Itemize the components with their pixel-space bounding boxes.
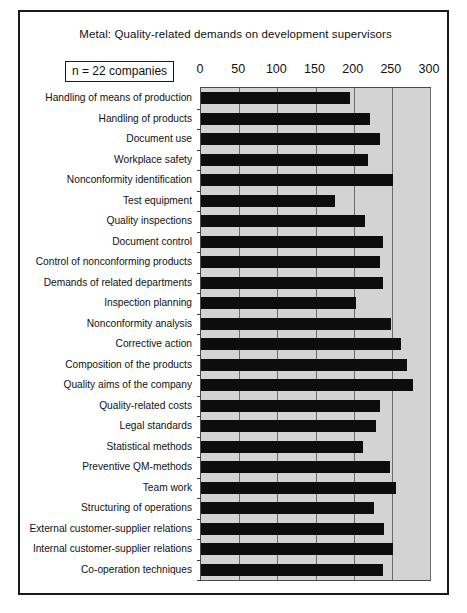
y-axis-tickmark bbox=[197, 129, 201, 130]
y-axis-tickmark bbox=[197, 478, 201, 479]
bar bbox=[201, 502, 374, 514]
bar bbox=[201, 174, 393, 186]
x-tick-label: 250 bbox=[380, 62, 401, 77]
bar bbox=[201, 154, 368, 166]
category-label: Quality-related costs bbox=[20, 400, 196, 412]
x-tick-label: 100 bbox=[266, 62, 287, 77]
y-axis-tickmark bbox=[197, 355, 201, 356]
y-axis-tickmark bbox=[197, 580, 201, 581]
y-axis-tickmark bbox=[197, 170, 201, 171]
x-axis-tick-labels: 050100150200250300 bbox=[20, 62, 451, 80]
bar bbox=[201, 441, 363, 453]
category-label: Legal standards bbox=[20, 420, 196, 432]
category-label: Internal customer-supplier relations bbox=[20, 543, 196, 555]
y-axis-tickmark bbox=[197, 539, 201, 540]
x-tick-label: 50 bbox=[231, 62, 245, 77]
bar bbox=[201, 400, 380, 412]
bar bbox=[201, 461, 390, 473]
y-axis-tickmark bbox=[197, 232, 201, 233]
y-axis-tickmark bbox=[197, 416, 201, 417]
category-label: Quality aims of the company bbox=[20, 379, 196, 391]
category-label: Quality inspections bbox=[20, 215, 196, 227]
category-label: Document use bbox=[20, 133, 196, 145]
bar bbox=[201, 215, 365, 227]
category-label: External customer-supplier relations bbox=[20, 523, 196, 535]
y-axis-tickmark bbox=[197, 519, 201, 520]
category-label: Nonconformity identification bbox=[20, 174, 196, 186]
plot-area bbox=[200, 87, 431, 581]
y-axis-tickmark bbox=[197, 252, 201, 253]
category-label: Inspection planning bbox=[20, 297, 196, 309]
category-label: Demands of related departments bbox=[20, 277, 196, 289]
gridline bbox=[430, 88, 431, 580]
bar bbox=[201, 338, 401, 350]
category-label: Structuring of operations bbox=[20, 502, 196, 514]
category-label: Workplace safety bbox=[20, 154, 196, 166]
x-tick-label: 0 bbox=[197, 62, 204, 77]
bar bbox=[201, 420, 376, 432]
category-label: Preventive QM-methods bbox=[20, 461, 196, 473]
bar bbox=[201, 543, 393, 555]
y-axis-tickmark bbox=[197, 273, 201, 274]
bar bbox=[201, 277, 383, 289]
y-axis-tickmark bbox=[197, 191, 201, 192]
bar bbox=[201, 92, 350, 104]
chart-figure: Metal: Quality-related demands on develo… bbox=[18, 10, 449, 595]
y-axis-tickmark bbox=[197, 498, 201, 499]
category-label: Control of nonconforming products bbox=[20, 256, 196, 268]
y-axis-tickmark bbox=[197, 314, 201, 315]
gridline bbox=[392, 88, 393, 580]
y-axis-category-labels: Handling of means of productionHandling … bbox=[20, 87, 196, 579]
bar bbox=[201, 564, 383, 576]
y-axis-tickmark bbox=[197, 211, 201, 212]
y-axis-tickmark bbox=[197, 334, 201, 335]
category-label: Composition of the products bbox=[20, 359, 196, 371]
y-axis-tickmark bbox=[197, 109, 201, 110]
x-tick-label: 300 bbox=[419, 62, 440, 77]
bar bbox=[201, 318, 391, 330]
category-label: Statistical methods bbox=[20, 441, 196, 453]
category-label: Team work bbox=[20, 482, 196, 494]
bar bbox=[201, 482, 396, 494]
x-tick-label: 200 bbox=[342, 62, 363, 77]
category-label: Document control bbox=[20, 236, 196, 248]
bar bbox=[201, 113, 370, 125]
y-axis-tickmark bbox=[197, 396, 201, 397]
y-axis-tickmark bbox=[197, 437, 201, 438]
category-label: Co-operation techniques bbox=[20, 564, 196, 576]
bar bbox=[201, 523, 384, 535]
y-axis-tickmark bbox=[197, 293, 201, 294]
bar bbox=[201, 256, 380, 268]
y-axis-tickmark bbox=[197, 375, 201, 376]
y-axis-tickmark bbox=[197, 457, 201, 458]
x-tick-label: 150 bbox=[304, 62, 325, 77]
bar bbox=[201, 133, 380, 145]
category-label: Corrective action bbox=[20, 338, 196, 350]
y-axis-tickmark bbox=[197, 560, 201, 561]
category-label: Test equipment bbox=[20, 195, 196, 207]
bar bbox=[201, 379, 413, 391]
category-label: Handling of means of production bbox=[20, 92, 196, 104]
y-axis-tickmark bbox=[197, 150, 201, 151]
bar bbox=[201, 297, 356, 309]
bar bbox=[201, 195, 335, 207]
category-label: Handling of products bbox=[20, 113, 196, 125]
bar bbox=[201, 359, 407, 371]
bar bbox=[201, 236, 383, 248]
page-title: Metal: Quality-related demands on develo… bbox=[20, 28, 451, 40]
category-label: Nonconformity analysis bbox=[20, 318, 196, 330]
